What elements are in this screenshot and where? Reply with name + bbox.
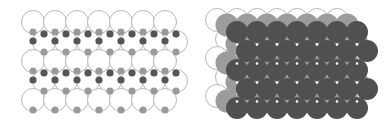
interstitial-gap	[276, 100, 279, 103]
top-layer-atom	[356, 40, 378, 62]
interstitial-gap	[296, 43, 299, 46]
interstitial-gap	[356, 43, 359, 46]
top-layer-atom	[276, 40, 298, 62]
interstitial-gap	[316, 62, 319, 65]
top-layer-atom	[296, 78, 318, 100]
top-layer-atom	[276, 78, 298, 100]
top-layer-atom	[346, 21, 368, 43]
top-layer-atom	[336, 78, 358, 100]
right-stacked-layers-diagram	[0, 0, 389, 120]
interstitial-gap	[336, 100, 339, 103]
top-layer-atom	[226, 21, 248, 43]
interstitial-gap	[356, 62, 359, 65]
interstitial-gap	[276, 43, 279, 46]
interstitial-gap	[256, 62, 259, 65]
top-layer-atom	[256, 78, 278, 100]
interstitial-gap	[256, 43, 259, 46]
top-layer-atom	[236, 40, 258, 62]
top-layer-atom	[246, 21, 268, 43]
interstitial-gap	[316, 100, 319, 103]
interstitial-gap	[356, 100, 359, 103]
diagram-canvas	[0, 0, 389, 120]
interstitial-gap	[256, 81, 259, 84]
interstitial-gap	[316, 43, 319, 46]
top-layer-atom	[316, 40, 338, 62]
top-layer-atom	[286, 21, 308, 43]
interstitial-gap	[356, 81, 359, 84]
interstitial-gap	[296, 100, 299, 103]
top-layer-atom	[316, 78, 338, 100]
interstitial-gap	[276, 81, 279, 84]
top-layer-atom	[236, 78, 258, 100]
interstitial-gap	[236, 81, 239, 84]
top-layer-atom	[326, 21, 348, 43]
top-layer-atom	[336, 40, 358, 62]
interstitial-gap	[316, 81, 319, 84]
interstitial-gap	[296, 62, 299, 65]
interstitial-gap	[296, 81, 299, 84]
interstitial-gap	[256, 100, 259, 103]
top-layer-atom	[256, 40, 278, 62]
interstitial-gap	[236, 43, 239, 46]
top-layer-atom	[356, 78, 378, 100]
interstitial-gap	[336, 43, 339, 46]
interstitial-gap	[276, 62, 279, 65]
top-layer-atom	[306, 21, 328, 43]
interstitial-gap	[236, 100, 239, 103]
interstitial-gap	[236, 62, 239, 65]
top-layer-atom	[296, 40, 318, 62]
interstitial-gap	[336, 62, 339, 65]
interstitial-gap	[336, 81, 339, 84]
top-layer-atom	[266, 21, 288, 43]
